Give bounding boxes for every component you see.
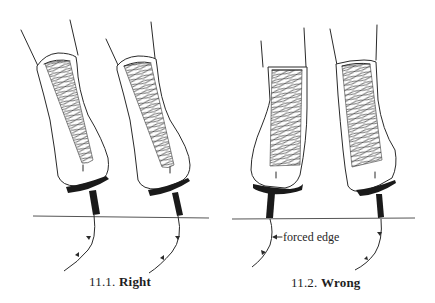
caption-right-number: 11.1. bbox=[89, 274, 116, 289]
caption-right: 11.1. Right bbox=[89, 274, 151, 290]
caption-right-label: Right bbox=[119, 274, 151, 289]
panel-right bbox=[21, 20, 209, 273]
skate-boot-right-wrong-panel bbox=[330, 25, 396, 270]
ice-surface-line bbox=[33, 216, 209, 218]
caption-wrong: 11.2. Wrong bbox=[291, 275, 361, 291]
caption-wrong-label: Wrong bbox=[321, 275, 361, 290]
caption-wrong-number: 11.2. bbox=[291, 275, 318, 290]
skating-edge-illustration bbox=[0, 0, 435, 303]
forced-edge-annotation: forced edge bbox=[283, 230, 339, 245]
skate-boot-right-right-panel bbox=[106, 22, 190, 273]
ice-surface-line bbox=[232, 218, 415, 219]
skate-boot-left-right-panel bbox=[21, 20, 109, 271]
